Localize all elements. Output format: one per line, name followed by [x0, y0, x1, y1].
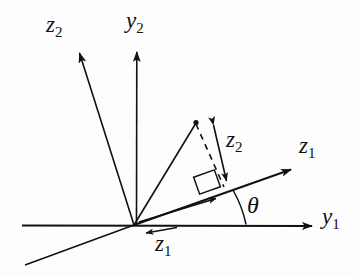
label-z1-axis-sub: 1 [308, 145, 316, 161]
right-angle-marker [194, 170, 221, 194]
label-y2-axis-base: y [126, 8, 136, 33]
label-y1-axis-base: y [322, 204, 332, 229]
label-z1-axis-base: z [299, 133, 308, 158]
z1-axis-negative-segment [25, 225, 134, 265]
y1-axis-line [22, 226, 312, 227]
label-z2-axis-base: z [46, 12, 55, 37]
z1-component-inner-arrow [139, 199, 216, 223]
label-z1-component-base: z [155, 231, 164, 256]
label-z2-component-base: z [226, 127, 235, 152]
coordinate-rotation-figure: z2 y2 z1 y1 z2 z1 θ [0, 0, 359, 277]
z2-axis-line [80, 53, 135, 225]
vector-to-point [134, 123, 196, 225]
theta-arc [234, 191, 247, 225]
label-z1-component: z1 [155, 232, 171, 255]
label-z1-axis: z1 [299, 134, 315, 157]
label-z2-component: z2 [226, 128, 242, 151]
label-y2-axis: y2 [126, 9, 144, 32]
label-z2-component-sub: 2 [235, 139, 243, 155]
label-theta-angle: θ [247, 193, 259, 217]
label-z1-component-sub: 1 [164, 243, 172, 259]
label-z2-axis: z2 [46, 13, 62, 36]
label-z2-axis-sub: 2 [55, 24, 63, 40]
label-y2-axis-sub: 2 [136, 20, 144, 36]
label-y1-axis: y1 [322, 205, 340, 228]
label-y1-axis-sub: 1 [332, 216, 340, 232]
